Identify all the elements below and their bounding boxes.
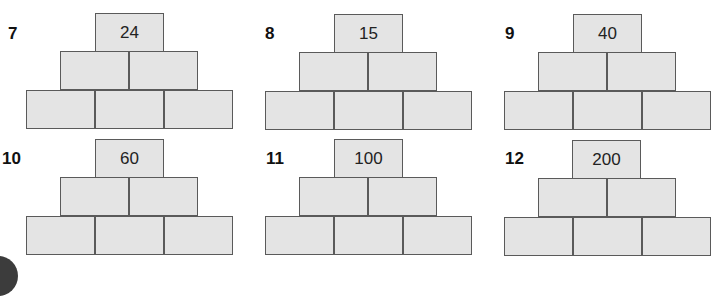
brick-middle-left[interactable] [299, 177, 368, 216]
brick-middle-right[interactable] [129, 51, 198, 90]
pyramid-7: 7 24 [26, 13, 234, 131]
question-number: 11 [266, 150, 284, 167]
brick-top: 200 [572, 140, 641, 179]
brick-bottom-center[interactable] [334, 91, 403, 130]
pyramid-8: 8 15 [265, 14, 473, 132]
brick-bottom-center[interactable] [95, 90, 164, 129]
brick-middle-left[interactable] [538, 52, 607, 91]
question-number: 9 [505, 25, 514, 42]
brick-middle-left[interactable] [60, 51, 129, 90]
brick-top: 100 [334, 139, 403, 178]
brick-top: 24 [95, 13, 164, 52]
brick-bottom-left[interactable] [504, 217, 573, 256]
question-number: 12 [505, 150, 524, 167]
brick-bottom-left[interactable] [504, 91, 573, 130]
brick-bottom-right[interactable] [164, 90, 233, 129]
brick-middle-right[interactable] [607, 178, 676, 217]
brick-bottom-left[interactable] [26, 216, 95, 255]
brick-bottom-right[interactable] [642, 217, 711, 256]
brick-middle-right[interactable] [607, 52, 676, 91]
brick-middle-right[interactable] [368, 177, 437, 216]
pyramid-10: 10 60 [26, 139, 234, 257]
brick-top: 15 [334, 14, 403, 53]
brick-bottom-left[interactable] [265, 91, 334, 130]
brick-top: 60 [95, 139, 164, 178]
brick-middle-right[interactable] [368, 52, 437, 91]
pyramid-11: 11 100 [265, 139, 473, 257]
brick-top: 40 [573, 14, 642, 53]
brick-bottom-left[interactable] [26, 90, 95, 129]
question-number: 8 [265, 25, 274, 42]
question-number: 10 [2, 150, 21, 167]
brick-middle-left[interactable] [60, 177, 129, 216]
brick-bottom-center[interactable] [334, 216, 403, 255]
question-number: 7 [8, 25, 17, 42]
brick-middle-right[interactable] [129, 177, 198, 216]
corner-decoration [0, 256, 18, 296]
brick-bottom-center[interactable] [573, 217, 642, 256]
brick-bottom-right[interactable] [403, 91, 472, 130]
pyramid-9: 9 40 [504, 14, 712, 132]
brick-bottom-center[interactable] [95, 216, 164, 255]
pyramid-12: 12 200 [504, 140, 712, 258]
brick-bottom-center[interactable] [573, 91, 642, 130]
brick-bottom-left[interactable] [265, 216, 334, 255]
brick-middle-left[interactable] [538, 178, 607, 217]
brick-middle-left[interactable] [299, 52, 368, 91]
brick-bottom-right[interactable] [164, 216, 233, 255]
brick-bottom-right[interactable] [403, 216, 472, 255]
brick-bottom-right[interactable] [642, 91, 711, 130]
